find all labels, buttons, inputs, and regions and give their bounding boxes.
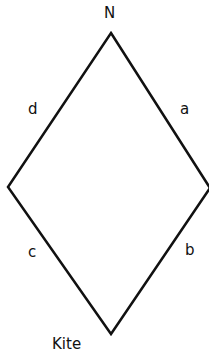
- side-label-b: b: [185, 243, 195, 258]
- side-label-d: d: [28, 102, 38, 117]
- kite-shape: [0, 0, 209, 354]
- north-label: N: [104, 6, 115, 21]
- side-label-a: a: [180, 102, 189, 117]
- side-label-c: c: [28, 245, 36, 260]
- shape-name-label: Kite: [52, 337, 81, 352]
